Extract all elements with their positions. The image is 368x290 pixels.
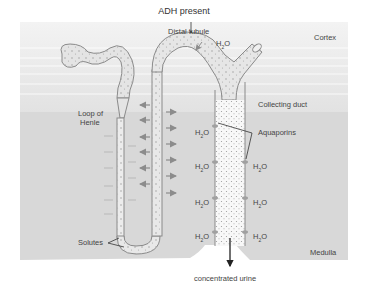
h2o-label-left-1: H2O bbox=[195, 129, 209, 139]
h2o-label-right-3: H2O bbox=[253, 233, 267, 243]
h2o-label-right-1: H2O bbox=[253, 163, 267, 173]
h2o-label-left-2: H2O bbox=[195, 163, 209, 173]
nephron-diagram bbox=[0, 0, 368, 290]
h2o-label-left-4: H2O bbox=[195, 233, 209, 243]
aquaporins-label: Aquaporins bbox=[258, 129, 296, 137]
loop-of-henle-label-2: Henle bbox=[80, 119, 100, 127]
collecting-duct-label: Collecting duct bbox=[258, 101, 307, 109]
distal-tubule-label: Distal tubule bbox=[168, 28, 209, 36]
h2o-label-distal: H2O bbox=[216, 40, 230, 50]
concentrated-urine-label: concentrated urine bbox=[194, 275, 256, 283]
loop-of-henle-label-1: Loop of bbox=[78, 110, 103, 118]
h2o-label-right-2: H2O bbox=[253, 199, 267, 209]
medulla-label: Medulla bbox=[310, 249, 336, 257]
h2o-label-left-3: H2O bbox=[195, 199, 209, 209]
solutes-label: Solutes bbox=[78, 239, 103, 247]
cortex-label: Cortex bbox=[314, 34, 336, 42]
